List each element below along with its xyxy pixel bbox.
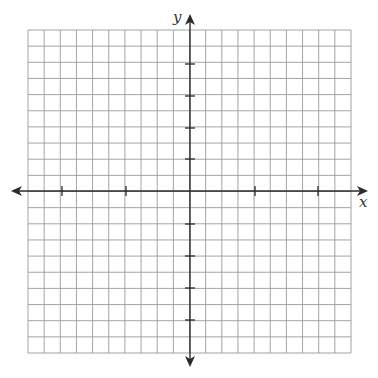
coordinate-plane: [0, 0, 378, 378]
axes: [11, 14, 368, 367]
y-axis-label: y: [173, 8, 181, 26]
x-axis-label: x: [359, 193, 367, 211]
